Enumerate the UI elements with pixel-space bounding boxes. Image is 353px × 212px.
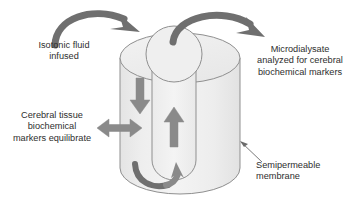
label-microdialysate: Microdialysate analyzed for cerebral bio…: [248, 44, 352, 78]
label-isotonic-fluid: Isotonic fluid infused: [16, 40, 112, 63]
label-semipermeable-membrane: Semipermeable membrane: [256, 160, 350, 183]
membrane-pointer-line: [240, 141, 262, 162]
inner-perfusion-tube: [146, 26, 202, 180]
label-cerebral-tissue: Cerebral tissue biochemical markers equi…: [6, 110, 98, 144]
